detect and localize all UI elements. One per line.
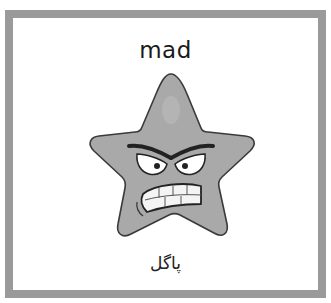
english-word: mad: [13, 37, 318, 63]
flashcard: mad پاگل: [5, 10, 326, 298]
angry-star-icon: [85, 70, 257, 246]
translated-word: پاگل: [13, 253, 318, 273]
